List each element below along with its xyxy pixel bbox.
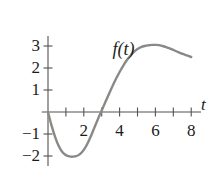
x-tick-label: 2 (72, 122, 96, 139)
y-tick-label: −1 (22, 125, 40, 142)
x-tick-label: 8 (179, 122, 203, 139)
y-tick-label: 1 (32, 81, 41, 98)
x-axis-label: t (201, 96, 206, 113)
y-tick-label: −2 (22, 147, 40, 164)
x-tick-label: 4 (108, 122, 132, 139)
function-label: f(t) (112, 40, 134, 58)
figure-plot-f-of-t: −2−1123 2468 f(t) t (0, 0, 223, 175)
x-tick-label: 6 (143, 122, 167, 139)
y-tick-label: 2 (32, 59, 41, 76)
y-tick-label: 3 (32, 37, 41, 54)
